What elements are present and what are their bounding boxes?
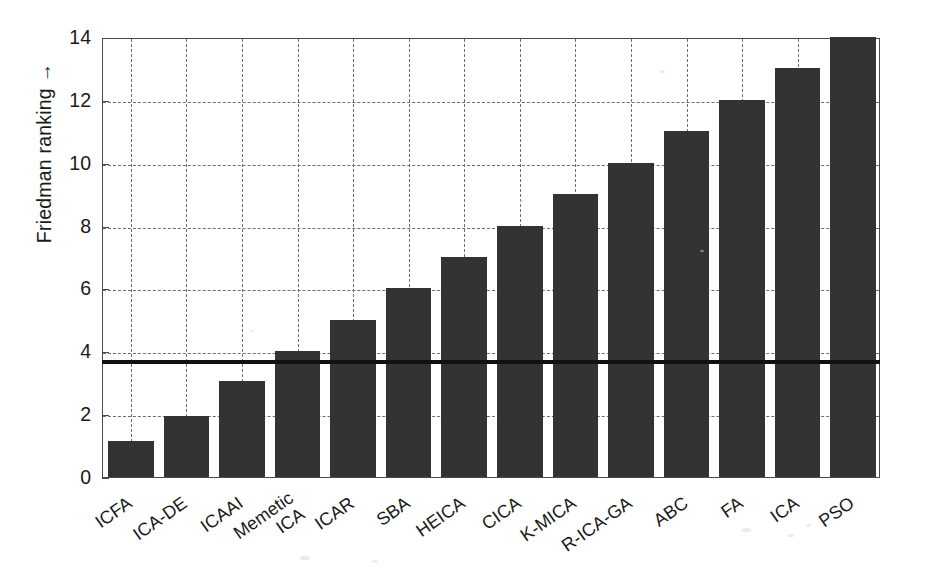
y-tick-mark	[102, 227, 109, 228]
scan-speck	[700, 250, 704, 252]
scan-speck	[372, 560, 378, 563]
gridline-vertical	[131, 39, 132, 477]
y-tick-label: 8	[47, 217, 91, 237]
bar	[164, 416, 210, 477]
scan-speck	[520, 200, 524, 202]
bar	[608, 163, 654, 477]
gridline-vertical	[186, 39, 187, 477]
bar	[497, 226, 543, 477]
scan-speck	[787, 534, 794, 537]
y-tick-mark	[102, 478, 109, 479]
y-tick-label: 0	[47, 468, 91, 488]
scan-speck	[250, 330, 254, 332]
critical-difference-line	[102, 360, 880, 364]
y-tick-mark	[102, 352, 109, 353]
y-tick-mark	[102, 289, 109, 290]
scan-speck	[300, 556, 310, 560]
y-tick-mark	[102, 164, 109, 165]
y-tick-mark	[102, 415, 109, 416]
bar	[553, 194, 599, 477]
y-tick-label: 4	[47, 343, 91, 363]
plot-area	[102, 38, 880, 478]
friedman-ranking-bar-chart: Friedman ranking → 02468101214 ICFAICA-D…	[0, 0, 928, 587]
bar	[219, 381, 265, 477]
bar	[386, 288, 432, 477]
bar	[275, 351, 321, 477]
y-tick-label: 10	[47, 154, 91, 174]
bar	[830, 37, 876, 477]
y-tick-mark	[102, 38, 109, 39]
scan-speck	[660, 70, 665, 73]
bar	[441, 257, 487, 477]
y-tick-label: 12	[47, 91, 91, 111]
scan-speck	[806, 524, 811, 527]
bar	[775, 68, 821, 477]
scan-speck	[742, 528, 751, 532]
bar	[330, 320, 376, 477]
bar	[664, 131, 710, 477]
bar	[719, 100, 765, 477]
y-tick-mark	[102, 101, 109, 102]
y-tick-label: 2	[47, 405, 91, 425]
bar	[108, 441, 154, 477]
y-tick-label: 6	[47, 280, 91, 300]
y-tick-label: 14	[47, 28, 91, 48]
